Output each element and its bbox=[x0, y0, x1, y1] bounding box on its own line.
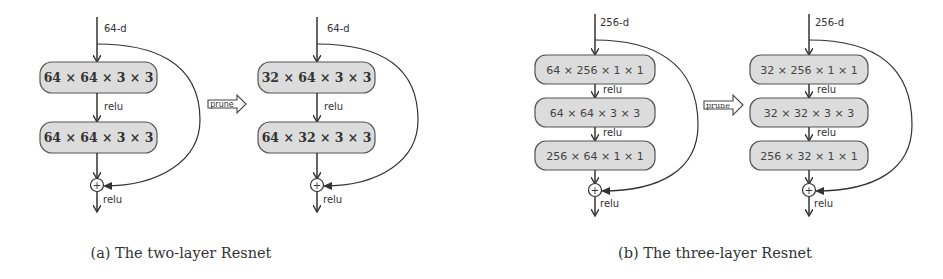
plus-icon: + bbox=[313, 180, 321, 191]
relu-label: relu bbox=[817, 84, 836, 95]
output-relu-label: relu bbox=[103, 194, 122, 205]
input-dim-label: 64-d bbox=[327, 23, 350, 34]
output-relu-label: relu bbox=[323, 194, 342, 205]
conv-layer-label: 64 × 64 × 3 × 3 bbox=[44, 130, 154, 145]
input-dim-label: 256-d bbox=[600, 17, 629, 28]
conv-layer-label: 64 × 64 × 3 × 3 bbox=[44, 70, 154, 85]
prune-arrow-a: prune bbox=[208, 95, 246, 113]
relu-label: relu bbox=[817, 127, 836, 138]
plus-icon: + bbox=[93, 180, 101, 191]
relu-label: relu bbox=[603, 127, 622, 138]
input-dim-label: 64-d bbox=[104, 23, 127, 34]
plus-icon: + bbox=[591, 185, 599, 196]
resnet-pruning-figure: 64-d 64 × 64 × 3 × 3 relu 64 × 64 × 3 × … bbox=[0, 0, 943, 279]
output-relu-label: relu bbox=[814, 198, 833, 209]
conv-layer-label: 32 × 256 × 1 × 1 bbox=[760, 64, 858, 77]
conv-layer-label: 32 × 32 × 3 × 3 bbox=[764, 107, 855, 120]
prune-label: prune bbox=[210, 100, 234, 109]
conv-layer-label: 64 × 256 × 1 × 1 bbox=[546, 64, 644, 77]
prune-arrow-b: prune bbox=[704, 95, 743, 115]
panel-b-pruned-block: 256-d 32 × 256 × 1 × 1 relu 32 × 32 × 3 … bbox=[750, 14, 912, 215]
output-relu-label: relu bbox=[600, 198, 619, 209]
panel-b: 256-d 64 × 256 × 1 × 1 relu 64 × 64 × 3 … bbox=[535, 14, 912, 261]
conv-layer-label: 256 × 32 × 1 × 1 bbox=[760, 150, 858, 163]
caption-b: (b) The three-layer Resnet bbox=[618, 245, 812, 261]
prune-label: prune bbox=[706, 101, 730, 110]
conv-layer-label: 64 × 64 × 3 × 3 bbox=[550, 107, 641, 120]
panel-a-pruned-block: 64-d 32 × 64 × 3 × 3 relu 64 × 32 × 3 × … bbox=[258, 17, 418, 211]
plus-icon: + bbox=[805, 185, 813, 196]
relu-label: relu bbox=[324, 101, 343, 112]
panel-a-original-block: 64-d 64 × 64 × 3 × 3 relu 64 × 64 × 3 × … bbox=[40, 17, 200, 211]
conv-layer-label: 32 × 64 × 3 × 3 bbox=[262, 70, 372, 85]
relu-label: relu bbox=[104, 101, 123, 112]
caption-a: (a) The two-layer Resnet bbox=[91, 245, 272, 261]
conv-layer-label: 64 × 32 × 3 × 3 bbox=[262, 130, 372, 145]
input-dim-label: 256-d bbox=[815, 17, 844, 28]
conv-layer-label: 256 × 64 × 1 × 1 bbox=[546, 150, 644, 163]
panel-a: 64-d 64 × 64 × 3 × 3 relu 64 × 64 × 3 × … bbox=[40, 17, 418, 261]
panel-b-original-block: 256-d 64 × 256 × 1 × 1 relu 64 × 64 × 3 … bbox=[535, 14, 698, 215]
relu-label: relu bbox=[603, 84, 622, 95]
